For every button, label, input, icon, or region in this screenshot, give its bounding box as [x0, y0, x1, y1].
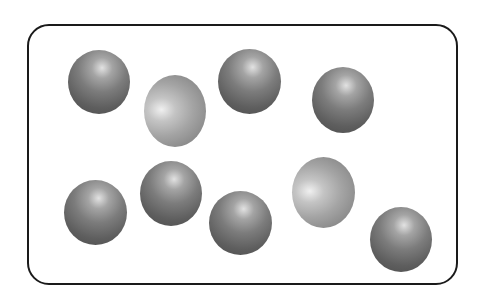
- dark-particle-sphere: [140, 161, 202, 226]
- dark-particle-sphere: [218, 49, 281, 114]
- dark-particle-sphere: [64, 180, 127, 245]
- dark-particle-sphere: [370, 207, 432, 272]
- light-particle-sphere: [144, 75, 206, 147]
- dark-particle-sphere: [312, 67, 374, 133]
- dark-particle-sphere: [209, 191, 272, 255]
- dark-particle-sphere: [68, 50, 130, 114]
- light-particle-sphere: [292, 157, 355, 228]
